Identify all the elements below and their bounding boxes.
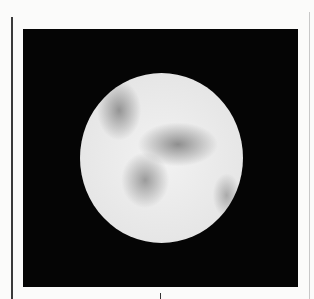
left-border-line [11,17,13,299]
bottom-tick-mark [160,293,161,299]
right-border-line [309,12,310,299]
planet-disc [80,73,243,243]
